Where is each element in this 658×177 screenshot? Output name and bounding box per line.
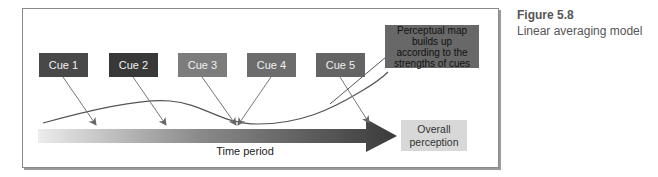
note-line: builds up — [394, 36, 470, 47]
overall-perception-box: Overall perception — [401, 120, 467, 151]
time-period-label: Time period — [185, 145, 305, 157]
cue-4-arrow — [238, 77, 271, 125]
figure-number: Figure 5.8 — [517, 8, 574, 22]
cue-2-box: Cue 2 — [109, 53, 158, 77]
cue-4-label: Cue 4 — [257, 59, 286, 71]
cue-3-arrow — [202, 77, 236, 125]
figure-caption: Linear averaging model — [517, 24, 642, 38]
cue-1-box: Cue 1 — [39, 53, 88, 77]
cue-1-arrow — [63, 77, 96, 125]
note-line: strengths of cues — [394, 58, 470, 69]
perceptual-map-note: Perceptual map builds up according to th… — [385, 25, 479, 68]
outcome-line: perception — [409, 136, 458, 149]
cue-2-label: Cue 2 — [119, 59, 148, 71]
note-line: according to the — [394, 47, 470, 58]
cue-1-label: Cue 1 — [49, 59, 78, 71]
cue-5-label: Cue 5 — [326, 59, 355, 71]
outcome-line: Overall — [409, 123, 458, 136]
perception-curve — [43, 72, 388, 124]
note-line: Perceptual map — [394, 25, 470, 36]
cue-4-box: Cue 4 — [247, 53, 296, 77]
cue-3-label: Cue 3 — [188, 59, 217, 71]
cue-3-box: Cue 3 — [178, 53, 227, 77]
cue-5-box: Cue 5 — [316, 53, 365, 77]
